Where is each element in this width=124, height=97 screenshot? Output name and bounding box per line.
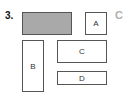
shaded-rectangle bbox=[22, 12, 72, 35]
shape-a-label: A bbox=[93, 19, 98, 28]
shape-d-label: D bbox=[79, 74, 85, 83]
shape-b[interactable]: B bbox=[22, 40, 44, 92]
shape-c-label: C bbox=[79, 47, 85, 56]
shape-d[interactable]: D bbox=[57, 71, 107, 85]
shape-a[interactable]: A bbox=[85, 12, 107, 35]
shape-b-label: B bbox=[30, 62, 35, 71]
question-number: 3. bbox=[5, 10, 13, 21]
shape-c[interactable]: C bbox=[57, 40, 107, 63]
answer-option-label: C bbox=[115, 9, 123, 21]
